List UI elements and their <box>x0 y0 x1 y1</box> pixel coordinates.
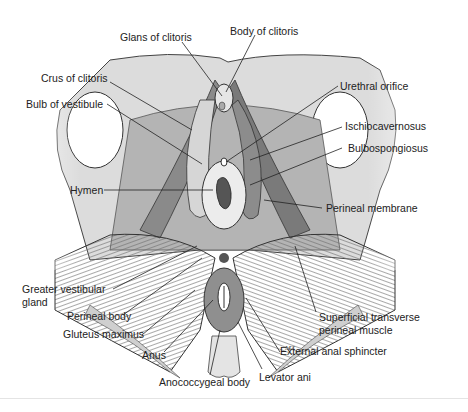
label-greater-vestibular-gland-line2: gland <box>22 296 48 308</box>
label-anus: Anus <box>142 349 166 361</box>
label-perineal-membrane: Perineal membrane <box>326 202 418 214</box>
label-anococcygeal-body: Anococcygeal body <box>159 376 250 388</box>
label-body-of-clitoris: Body of clitoris <box>230 25 298 37</box>
label-hymen: Hymen <box>70 184 103 196</box>
label-greater-vestibular-gland: Greater vestibular <box>22 283 105 295</box>
label-gluteus-maximus: Gluteus maximus <box>63 328 144 340</box>
label-external-anal-sphincter: External anal sphincter <box>280 345 387 357</box>
label-crus-of-clitoris: Crus of clitoris <box>41 72 108 84</box>
label-superficial-transverse-perineal-muscle-line2: perineal muscle <box>319 324 393 336</box>
figure-caption-cropped <box>0 398 468 412</box>
label-urethral-orifice: Urethral orifice <box>340 80 408 92</box>
label-bulbospongiosus: Bulbospongiosus <box>348 142 428 154</box>
label-glans-of-clitoris: Glans of clitoris <box>120 31 192 43</box>
label-ischiocavernosus: Ischiocavernosus <box>345 120 426 132</box>
label-bulb-of-vestibule: Bulb of vestibule <box>26 98 103 110</box>
label-levator-ani: Levator ani <box>259 371 311 383</box>
label-perineal-body: Perineal body <box>67 310 131 322</box>
coccyx <box>208 336 240 377</box>
label-superficial-transverse-perineal-muscle: Superficial transverse <box>319 311 420 323</box>
